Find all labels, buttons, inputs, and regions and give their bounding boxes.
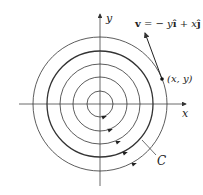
field-plus: + x <box>177 18 198 29</box>
point-label: (x, y) <box>167 73 193 84</box>
point-dot <box>160 77 164 81</box>
y-axis-label: y <box>105 12 113 25</box>
field-j: ĵ <box>196 18 201 29</box>
field-equation: v = − yî + xĵ <box>134 18 201 29</box>
x-axis-label: x <box>182 107 189 120</box>
direction-arrows <box>101 114 137 167</box>
curve-c-label: C <box>157 154 166 168</box>
curve-c-leader <box>142 140 156 155</box>
velocity-vector <box>145 33 162 79</box>
vector-field-diagram: y x (x, y) C v = − yî + xĵ <box>0 0 203 195</box>
field-eq: = − y <box>141 18 173 29</box>
